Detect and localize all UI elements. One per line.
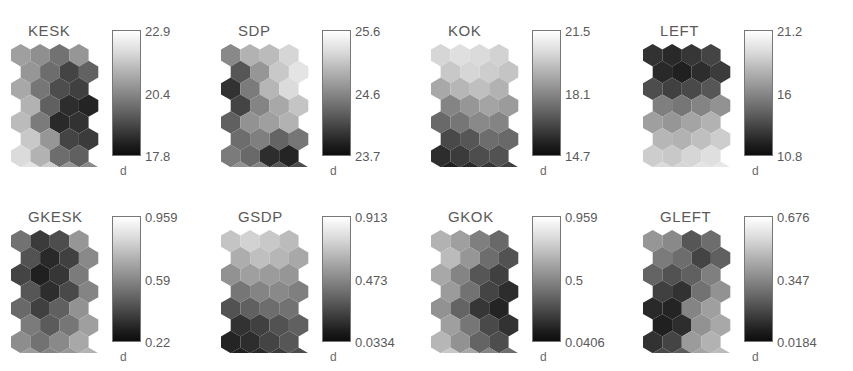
colorbar-group: 22.920.417.8d <box>112 30 208 180</box>
colorbar-gradient <box>112 30 141 156</box>
colorbar-tick-label: 21.2 <box>777 25 802 38</box>
colorbar-tick-label: 0.959 <box>565 211 598 224</box>
colorbar-tick-label: 22.9 <box>145 25 170 38</box>
colorbar-unit-label: d <box>752 164 759 178</box>
colorbar-tick-label: 0.5 <box>565 274 583 287</box>
colorbar-group: 21.518.114.7d <box>532 30 628 180</box>
component-plane-panel: GKOK0.9590.50.0406d <box>420 186 633 371</box>
colorbar-tick-label: 0.22 <box>145 336 170 349</box>
colorbar-tick-label: 23.7 <box>355 150 380 163</box>
colorbar-tick-label: 0.347 <box>777 274 810 287</box>
panel-title: GSDP <box>238 208 283 225</box>
hexagonal-som-map <box>218 228 314 353</box>
colorbar-gradient <box>322 216 351 342</box>
component-plane-panel: GSDP0.9130.4730.0334d <box>210 186 423 371</box>
colorbar-tick-label: 24.6 <box>355 88 380 101</box>
colorbar-gradient <box>112 216 141 342</box>
colorbar-group: 0.9590.590.22d <box>112 216 208 366</box>
colorbar-tick-label: 14.7 <box>565 150 590 163</box>
colorbar-group: 0.9130.4730.0334d <box>322 216 418 366</box>
colorbar-unit-label: d <box>120 350 127 364</box>
panel-title: SDP <box>238 22 271 39</box>
colorbar-unit-label: d <box>120 164 127 178</box>
colorbar-tick-label: 0.959 <box>145 211 178 224</box>
panel-title: LEFT <box>660 22 699 39</box>
colorbar-tick-label: 20.4 <box>145 88 170 101</box>
hexagonal-som-map <box>428 42 524 167</box>
colorbar-group: 25.624.623.7d <box>322 30 418 180</box>
colorbar-tick-label: 0.0406 <box>565 336 605 349</box>
hexagonal-som-map <box>218 42 314 167</box>
component-plane-panel: LEFT21.21610.8d <box>632 0 845 185</box>
panel-title: GKOK <box>448 208 494 225</box>
colorbar-tick-label: 21.5 <box>565 25 590 38</box>
component-plane-panel: KOK21.518.114.7d <box>420 0 633 185</box>
panel-title: KESK <box>28 22 70 39</box>
colorbar-tick-label: 0.913 <box>355 211 388 224</box>
colorbar-tick-label: 0.473 <box>355 274 388 287</box>
colorbar-group: 21.21610.8d <box>744 30 840 180</box>
panel-title: GKESK <box>28 208 83 225</box>
colorbar-gradient <box>744 216 773 342</box>
colorbar-tick-label: 0.676 <box>777 211 810 224</box>
colorbar-tick-label: 0.59 <box>145 274 170 287</box>
colorbar-tick-label: 16 <box>777 88 791 101</box>
colorbar-unit-label: d <box>330 350 337 364</box>
colorbar-unit-label: d <box>330 164 337 178</box>
hexagonal-som-map <box>640 42 736 167</box>
colorbar-gradient <box>744 30 773 156</box>
colorbar-tick-label: 10.8 <box>777 150 802 163</box>
panel-title: KOK <box>448 22 481 39</box>
colorbar-tick-label: 18.1 <box>565 88 590 101</box>
colorbar-tick-label: 0.0334 <box>355 336 395 349</box>
colorbar-gradient <box>322 30 351 156</box>
colorbar-group: 0.6760.3470.0184d <box>744 216 840 366</box>
hexagonal-som-map <box>8 228 104 353</box>
som-component-plane-figure: KESK22.920.417.8dSDP25.624.623.7dKOK21.5… <box>0 0 853 371</box>
component-plane-panel: GKESK0.9590.590.22d <box>0 186 213 371</box>
component-plane-panel: GLEFT0.6760.3470.0184d <box>632 186 845 371</box>
colorbar-gradient <box>532 30 561 156</box>
colorbar-tick-label: 0.0184 <box>777 336 817 349</box>
hexagonal-som-map <box>8 42 104 167</box>
component-plane-panel: KESK22.920.417.8d <box>0 0 213 185</box>
hexagonal-som-map <box>428 228 524 353</box>
colorbar-tick-label: 17.8 <box>145 150 170 163</box>
colorbar-gradient <box>532 216 561 342</box>
hexagonal-som-map <box>640 228 736 353</box>
panel-title: GLEFT <box>660 208 711 225</box>
colorbar-unit-label: d <box>752 350 759 364</box>
colorbar-unit-label: d <box>540 350 547 364</box>
colorbar-group: 0.9590.50.0406d <box>532 216 628 366</box>
colorbar-unit-label: d <box>540 164 547 178</box>
component-plane-panel: SDP25.624.623.7d <box>210 0 423 185</box>
colorbar-tick-label: 25.6 <box>355 25 380 38</box>
